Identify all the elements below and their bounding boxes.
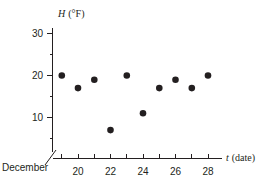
x-axis-unit-text: (date) <box>232 152 255 164</box>
x-axis-ticks <box>62 154 208 159</box>
data-point <box>156 85 163 92</box>
data-point <box>124 72 131 79</box>
month-label: December <box>2 162 48 173</box>
data-point <box>140 110 147 117</box>
data-point <box>172 76 179 83</box>
y-axis-variable: H <box>57 8 66 19</box>
x-tick-label-26: 26 <box>170 166 182 177</box>
x-tick-label-20: 20 <box>72 166 84 177</box>
y-tick-label-30: 30 <box>32 28 44 39</box>
y-axis-unit-text: (°F) <box>68 8 84 20</box>
data-point <box>91 76 98 83</box>
scatter-chart: 30 20 10 20 22 24 26 28 H(°F) t(date) <box>0 0 257 192</box>
y-tick-label-20: 20 <box>32 70 44 81</box>
x-tick-label-24: 24 <box>137 166 149 177</box>
x-tick-label-28: 28 <box>202 166 214 177</box>
data-point <box>107 127 114 134</box>
y-tick-label-10: 10 <box>32 112 44 123</box>
data-point <box>75 85 82 92</box>
y-axis-ticks <box>47 34 53 139</box>
data-point <box>59 72 66 79</box>
x-axis-variable: t <box>226 152 229 163</box>
data-point-series <box>59 72 212 133</box>
x-tick-label-22: 22 <box>105 166 117 177</box>
x-axis-title: t(date) <box>226 152 255 164</box>
y-axis-title: H(°F) <box>57 8 84 20</box>
data-point <box>205 72 212 79</box>
data-point <box>189 85 196 92</box>
